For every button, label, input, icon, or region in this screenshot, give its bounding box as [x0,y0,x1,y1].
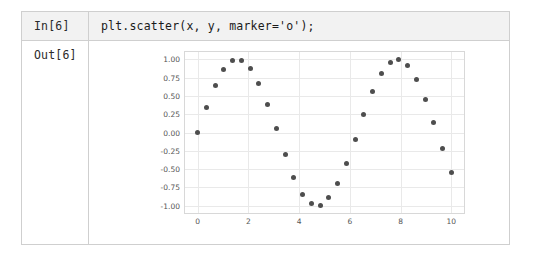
scatter-point [265,102,270,107]
input-cell-row: In[6] plt.scatter(x, y, marker='o'); [22,12,510,41]
scatter-point [318,203,323,208]
scatter-point [221,67,226,72]
scatter-point [291,175,296,180]
input-prompt-label: In[6] [22,12,89,41]
x-axis-tick-label: 2 [246,217,251,226]
y-axis-tick-label: -0.25 [161,146,180,155]
plot-axes: -1.00-0.75-0.50-0.250.000.250.500.751.00… [184,51,465,214]
scatter-point [300,192,305,197]
gridline-horizontal [185,151,464,152]
matplotlib-figure: -1.00-0.75-0.50-0.250.000.250.500.751.00… [89,41,509,244]
gridline-horizontal [185,114,464,115]
y-axis-tick-label: -1.00 [161,201,180,210]
code-input-area[interactable]: plt.scatter(x, y, marker='o'); [89,12,510,41]
output-area: -1.00-0.75-0.50-0.250.000.250.500.751.00… [89,41,510,245]
scatter-point [248,66,253,71]
scatter-point [414,77,419,82]
scatter-point [213,83,218,88]
screenshot-root: In[6] plt.scatter(x, y, marker='o'); Out… [0,0,548,273]
scatter-point [370,89,375,94]
gridline-vertical [299,52,300,213]
x-axis-tick-label: 0 [195,217,200,226]
scatter-point [344,161,349,166]
y-axis-tick-label: 0.25 [163,110,180,119]
x-axis-tick-label: 8 [398,217,403,226]
scatter-point [379,71,384,76]
scatter-point [405,63,410,68]
gridline-vertical [401,52,402,213]
y-axis-tick-label: -0.75 [161,183,180,192]
gridline-vertical [451,52,452,213]
y-axis-tick-label: 0.75 [163,73,180,82]
scatter-point [353,137,358,142]
scatter-point [230,58,235,63]
scatter-point [335,181,340,186]
y-axis-tick-label: 0.50 [163,91,180,100]
gridline-horizontal [185,96,464,97]
scatter-point [239,58,244,63]
gridline-horizontal [185,187,464,188]
scatter-point [449,170,454,175]
scatter-point [195,130,200,135]
gridline-horizontal [185,169,464,170]
scatter-point [361,112,366,117]
scatter-point [274,126,279,131]
gridline-horizontal [185,133,464,134]
gridline-vertical [350,52,351,213]
output-cell-row: Out[6] -1.00-0.75-0.50-0.250.000.250.500… [22,41,510,245]
gridline-vertical [248,52,249,213]
scatter-point [388,60,393,65]
scatter-point [204,105,209,110]
scatter-point [326,195,331,200]
y-axis-tick-label: -0.50 [161,165,180,174]
gridline-horizontal [185,78,464,79]
scatter-point [431,120,436,125]
scatter-point [423,97,428,102]
x-axis-tick-label: 10 [447,217,457,226]
scatter-point [283,152,288,157]
y-axis-tick-label: 0.00 [163,128,180,137]
gridline-horizontal [185,206,464,207]
scatter-point [256,81,261,86]
y-axis-tick-label: 1.00 [163,55,180,64]
x-axis-tick-label: 4 [297,217,302,226]
notebook-cell-table: In[6] plt.scatter(x, y, marker='o'); Out… [21,11,510,245]
x-axis-tick-label: 6 [347,217,352,226]
gridline-horizontal [185,59,464,60]
output-prompt-label: Out[6] [22,41,89,245]
